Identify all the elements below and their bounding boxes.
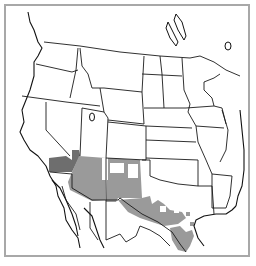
political-borders: [22, 42, 240, 252]
map-canvas: [0, 0, 256, 266]
lakes: [90, 14, 232, 121]
shade-south-texas: [170, 226, 194, 252]
